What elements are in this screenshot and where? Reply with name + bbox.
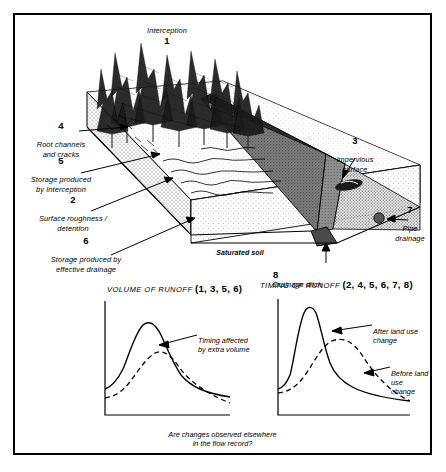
label-impervious-surface-num: 3 [313, 135, 397, 146]
chart-volume-of-runoff [87, 293, 247, 433]
chart-timing-annotation-before: Before land use change [391, 360, 430, 396]
label-pipe-drainage-num: 7 [387, 204, 433, 215]
label-interception: Interception 1 [119, 17, 215, 56]
chart-volume-axes [105, 301, 230, 415]
chart-timing-annotation-after-text: After land use change [373, 327, 418, 345]
figure-root: Interception 1 4 Root channels and crack… [0, 0, 446, 472]
chart-volume-annotation: Timing affected by extra volume [198, 327, 250, 354]
label-impervious-surface-text: Impervious surface [336, 155, 373, 173]
label-storage-interception-num: 5 [11, 155, 111, 166]
chart-timing-annotation-after: After land use change [373, 318, 418, 345]
label-interception-num: 1 [119, 35, 215, 46]
label-storage-effective-drainage-text: Storage produced by effective drainage [51, 255, 122, 273]
label-surface-roughness-num: 2 [21, 194, 125, 205]
figure-caption: Are changes observed elsewhere in the fl… [15, 430, 430, 449]
figure-border: Interception 1 4 Root channels and crack… [13, 13, 432, 455]
label-pipe-drainage: 7 Pipe drainage [387, 195, 433, 243]
label-impervious-surface: 3 Impervious surface [313, 126, 397, 174]
chart-volume-annotation-text: Timing affected by extra volume [198, 336, 250, 354]
chart-volume-series-dashed [105, 352, 230, 403]
label-storage-effective-drainage: 6 Storage produced by effective drainage [29, 226, 143, 274]
pipe-drainage-outlet [374, 213, 384, 223]
label-saturated-soil-text: Saturated soil [216, 249, 264, 256]
label-interception-text: Interception [147, 26, 187, 35]
label-pipe-drainage-text: Pipe drainage [395, 224, 425, 242]
chart-timing-annotation-before-text: Before land use change [391, 369, 428, 396]
figure-caption-text: Are changes observed elsewhere in the fl… [168, 430, 276, 448]
label-root-channels-num: 4 [16, 120, 106, 131]
label-storage-effective-drainage-num: 6 [29, 235, 143, 246]
label-saturated-soil: Saturated soil [190, 239, 290, 257]
